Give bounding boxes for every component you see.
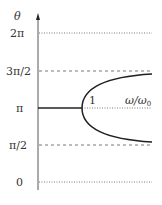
x-axis-label-subscript: 0	[147, 100, 151, 108]
x-axis-label: ω/ω0	[125, 94, 151, 108]
tick-label-2pi: 2π	[10, 27, 24, 40]
tick-label-pi: π	[16, 102, 23, 115]
y-axis-label: θ	[14, 10, 21, 23]
tick-label-pi-2: π/2	[9, 139, 27, 152]
bifurcation-label: 1	[89, 94, 96, 107]
tick-label-3pi-2: 3π/2	[6, 65, 31, 78]
bifurcation-chart: θ 2π 3π/2 π π/2 0 1 ω/ω0	[0, 0, 162, 205]
y-axis-arrow-icon	[36, 13, 40, 20]
tick-label-zero: 0	[16, 176, 23, 189]
branch-lower	[82, 108, 152, 142]
